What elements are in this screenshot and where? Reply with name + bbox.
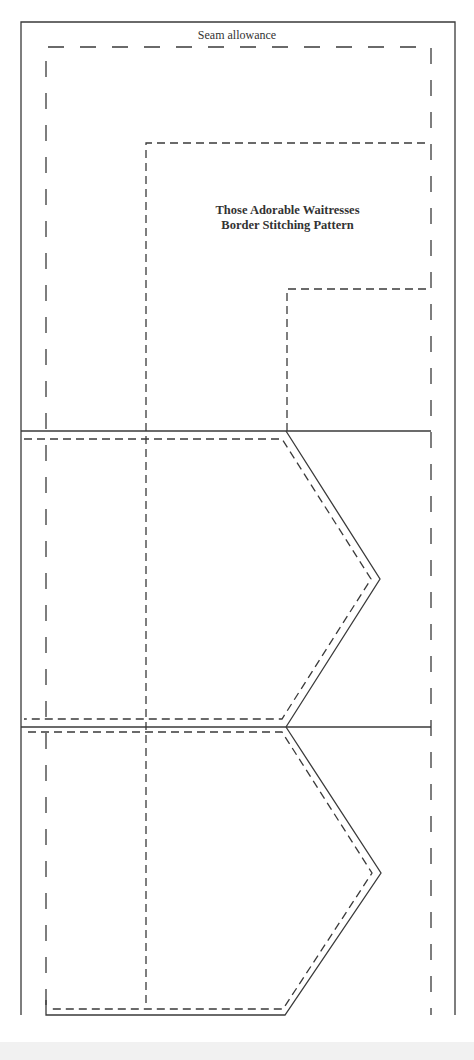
title-line-1: Those Adorable Waitresses [145,203,430,218]
outer-frame [21,22,455,1015]
pennant-2-stitch [28,732,372,1009]
inner-stitch-line [146,143,430,1003]
pennant-1-outline [286,431,380,727]
pennant-1-stitch [24,439,371,719]
seam-allowance-label: Seam allowance [0,28,474,43]
pennant-2-outline [46,727,381,1015]
small-stitch-line [287,289,430,431]
pattern-page: Seam allowance Those Adorable Waitresses… [0,0,474,1060]
title-line-2: Border Stitching Pattern [145,218,430,233]
pattern-drawing [0,0,474,1060]
page-edge-shade [0,1042,474,1060]
pattern-title: Those Adorable Waitresses Border Stitchi… [145,203,430,233]
seam-allowance-line [46,47,431,1015]
